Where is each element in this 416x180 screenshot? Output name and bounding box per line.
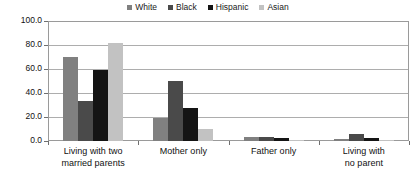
legend-swatch-icon [168, 5, 173, 10]
bar-white[interactable] [153, 118, 168, 141]
bar-white[interactable] [334, 139, 349, 141]
bar-white[interactable] [244, 137, 259, 141]
x-axis-category-label: Living with twomarried parents [48, 146, 138, 169]
y-axis-tick-mark [44, 141, 48, 142]
y-axis-tick-mark [44, 69, 48, 70]
y-axis-tick-label: 60.0 [0, 64, 42, 72]
bar-group [319, 21, 409, 141]
x-axis-category-label-line: Living with [319, 146, 409, 158]
y-axis: 100.080.060.040.020.00.0 [0, 0, 44, 180]
bar-black[interactable] [78, 101, 93, 141]
bar-hispanic[interactable] [183, 108, 198, 141]
x-axis-category-label-line: Living with two [48, 146, 138, 158]
x-axis-tick-mark [229, 141, 230, 145]
bar-group [48, 21, 138, 141]
y-axis-tick-label: 100.0 [0, 16, 42, 24]
x-axis-tick-mark [319, 141, 320, 145]
legend-label: White [135, 2, 157, 12]
x-axis-category-label-line: married parents [48, 158, 138, 170]
y-axis-tick-mark [44, 45, 48, 46]
bar-black[interactable] [168, 81, 183, 141]
x-axis-category-label-line: Mother only [138, 146, 228, 158]
bar-asian[interactable] [289, 140, 304, 141]
legend-label: Black [176, 2, 197, 12]
bar-white[interactable] [63, 57, 78, 141]
bar-black[interactable] [349, 134, 364, 141]
x-axis-category-label: Living withno parent [319, 146, 409, 169]
bars-layer [48, 21, 409, 141]
chart-legend: WhiteBlackHispanicAsian [0, 2, 416, 12]
chart-container: WhiteBlackHispanicAsian 100.080.060.040.… [0, 0, 416, 180]
bar-asian[interactable] [198, 129, 213, 141]
legend-label: Hispanic [216, 2, 249, 12]
x-axis-tick-mark [138, 141, 139, 145]
legend-swatch-icon [127, 5, 132, 10]
bar-hispanic[interactable] [93, 70, 108, 141]
legend-label: Asian [267, 2, 288, 12]
y-axis-tick-label: 80.0 [0, 40, 42, 48]
y-axis-tick-mark [44, 117, 48, 118]
y-axis-tick-label: 20.0 [0, 112, 42, 120]
legend-entry-black[interactable]: Black [168, 2, 197, 12]
bar-group [229, 21, 319, 141]
x-axis-tick-mark [409, 141, 410, 145]
x-axis-category-label: Father only [229, 146, 319, 158]
x-axis-category-label-line: Father only [229, 146, 319, 158]
y-axis-tick-mark [44, 21, 48, 22]
x-axis-labels: Living with twomarried parentsMother onl… [48, 146, 409, 180]
legend-entry-asian[interactable]: Asian [259, 2, 288, 12]
y-axis-tick-label: 0.0 [0, 136, 42, 144]
legend-swatch-icon [259, 5, 264, 10]
x-axis-category-label: Mother only [138, 146, 228, 158]
bar-hispanic[interactable] [364, 138, 379, 141]
bar-hispanic[interactable] [274, 138, 289, 141]
legend-swatch-icon [208, 5, 213, 10]
legend-entry-white[interactable]: White [127, 2, 157, 12]
y-axis-tick-mark [44, 93, 48, 94]
legend-entry-hispanic[interactable]: Hispanic [208, 2, 249, 12]
bar-asian[interactable] [108, 43, 123, 141]
bar-group [138, 21, 228, 141]
x-axis-category-label-line: no parent [319, 158, 409, 170]
bar-black[interactable] [259, 137, 274, 141]
bar-asian[interactable] [379, 140, 394, 141]
x-axis-tick-mark [48, 141, 49, 145]
y-axis-tick-label: 40.0 [0, 88, 42, 96]
